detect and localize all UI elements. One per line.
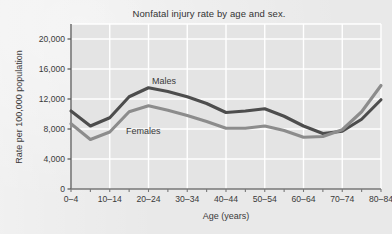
y-tick-label: 8,000 xyxy=(43,124,65,134)
x-axis-title: Age (years) xyxy=(203,211,250,221)
x-tick-label: 0–4 xyxy=(64,194,79,204)
x-tick-label: 70–74 xyxy=(330,194,354,204)
y-tick-label: 12,000 xyxy=(39,94,66,104)
y-tick-label: 20,000 xyxy=(39,34,66,44)
x-axis-ticks: 0–410–1420–2430–3440–4450–5460–6470–7480… xyxy=(64,189,392,204)
y-axis-ticks: 04,0008,00012,00016,00020,000 xyxy=(39,34,71,194)
y-tick-label: 16,000 xyxy=(39,64,66,74)
series-label-males: Males xyxy=(152,76,177,86)
y-tick-label: 0 xyxy=(60,184,65,194)
x-tick-label: 40–44 xyxy=(214,194,238,204)
x-tick-label: 10–14 xyxy=(98,194,122,204)
y-tick-label: 4,000 xyxy=(43,154,65,164)
x-tick-label: 30–34 xyxy=(175,194,199,204)
figure-container: Nonfatal injury rate by age and sex. 04,… xyxy=(0,0,392,234)
x-tick-label: 50–54 xyxy=(253,194,277,204)
x-tick-label: 60–64 xyxy=(292,194,316,204)
line-chart-plot: 04,0008,00012,00016,00020,000 0–410–1420… xyxy=(0,0,392,234)
x-tick-label: 80–84 xyxy=(369,194,392,204)
series-label-females: Females xyxy=(126,126,161,136)
x-tick-label: 20–24 xyxy=(137,194,161,204)
y-axis-title: Rate per 100,000 population xyxy=(14,50,24,164)
